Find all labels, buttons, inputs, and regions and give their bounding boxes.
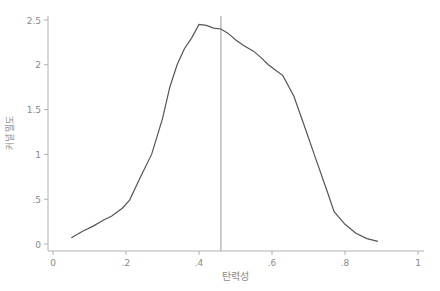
x-tick-label: .8 <box>341 258 350 268</box>
x-tick-label: .6 <box>268 258 277 268</box>
density-chart: 0.511.522.5 0.2.4.6.81 탄력성 커널 밀도 <box>0 0 440 291</box>
y-axis: 0.511.522.5 <box>27 16 48 252</box>
y-tick-label: 2 <box>35 60 41 70</box>
y-axis-label: 커널 밀도 <box>4 116 15 151</box>
x-tick-label: 1 <box>415 258 421 268</box>
x-tick-label: 0 <box>50 258 56 268</box>
y-tick-label: 0 <box>35 240 41 250</box>
x-axis-label: 탄력성 <box>222 271 249 282</box>
y-tick-label: .5 <box>32 195 41 205</box>
y-tick-label: 1.5 <box>27 105 41 115</box>
y-tick-label: 2.5 <box>27 16 41 26</box>
x-axis: 0.2.4.6.81 <box>48 251 424 268</box>
x-tick-label: .2 <box>122 258 131 268</box>
x-tick-label: .4 <box>195 258 204 268</box>
y-tick-label: 1 <box>35 150 41 160</box>
density-curve <box>71 25 378 242</box>
